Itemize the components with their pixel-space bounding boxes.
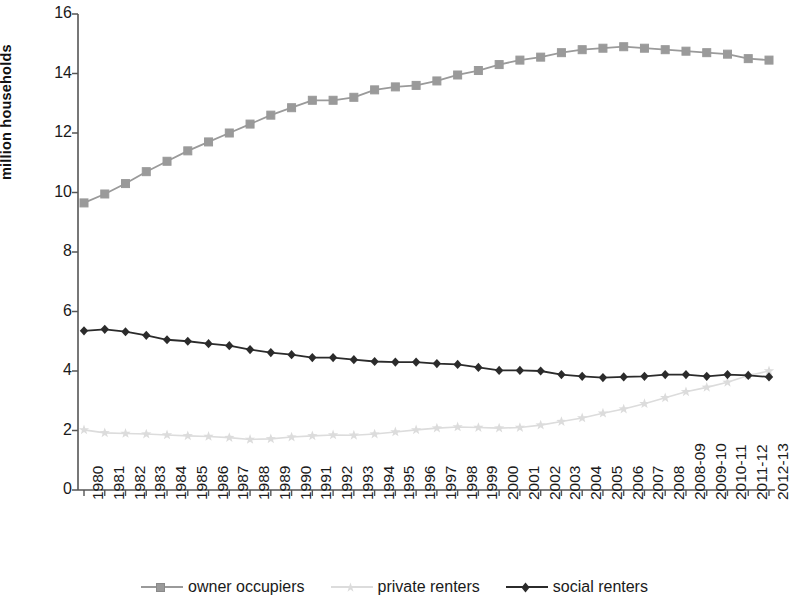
x-axis-tick-label: 1982 — [132, 466, 148, 500]
x-axis-tick-label: 1995 — [401, 466, 417, 500]
star-marker-icon — [307, 430, 317, 440]
series-line — [84, 329, 769, 377]
diamond-marker-icon — [350, 355, 358, 364]
legend-label-social-renters: social renters — [553, 578, 648, 596]
diamond-marker-icon — [703, 372, 711, 381]
x-axis-tick-label: 1980 — [90, 466, 106, 500]
x-axis-tick-label: 2000 — [505, 466, 521, 500]
square-marker-icon — [640, 44, 648, 52]
square-marker-icon — [225, 129, 233, 137]
x-axis-tick-label: 2009-10 — [713, 443, 729, 500]
star-marker-icon — [536, 420, 546, 430]
diamond-marker-icon — [370, 357, 378, 366]
diamond-marker-icon — [765, 372, 773, 381]
square-marker-icon — [205, 138, 213, 146]
square-marker-icon — [723, 50, 731, 58]
star-marker-icon — [345, 582, 356, 593]
square-marker-icon — [184, 147, 192, 155]
x-axis-tick-label: 1989 — [277, 466, 293, 500]
chart-plot-area — [0, 0, 789, 605]
star-marker-icon — [162, 430, 172, 440]
square-marker-icon — [267, 111, 275, 119]
star-marker-icon — [681, 386, 691, 396]
x-axis-tick-label: 1984 — [173, 466, 189, 500]
diamond-marker-icon — [308, 353, 316, 362]
diamond-marker-icon — [246, 345, 254, 354]
x-axis-tick-label: 1994 — [381, 466, 397, 500]
star-marker-icon — [183, 430, 193, 440]
square-marker-icon — [288, 104, 296, 112]
star-marker-icon — [100, 427, 110, 437]
star-marker-icon — [79, 425, 89, 435]
x-axis-tick-label: 1996 — [422, 466, 438, 500]
square-marker-icon — [163, 157, 171, 165]
series-owner-occupiers — [80, 43, 773, 207]
x-axis-tick-label: 1992 — [339, 466, 355, 500]
x-axis-tick-label: 2008-09 — [692, 443, 708, 500]
diamond-marker-icon — [80, 326, 88, 335]
star-marker-icon — [120, 428, 130, 438]
x-axis-tick-label: 1986 — [215, 466, 231, 500]
diamond-marker-icon — [619, 372, 627, 381]
square-marker-icon — [371, 86, 379, 94]
diamond-marker-icon — [225, 341, 233, 350]
x-axis-tick-label: 1983 — [152, 466, 168, 500]
diamond-marker-icon — [495, 366, 503, 375]
star-marker-icon — [660, 392, 670, 402]
series-line — [84, 47, 769, 203]
star-marker-icon — [619, 404, 629, 414]
square-marker-icon — [557, 49, 565, 57]
diamond-marker-icon — [142, 331, 150, 340]
x-axis-tick-label: 2005 — [609, 466, 625, 500]
star-marker-icon — [473, 422, 483, 432]
x-axis-tick-label: 1987 — [235, 466, 251, 500]
series-social-renters — [80, 325, 773, 382]
star-marker-icon — [328, 430, 338, 440]
legend-item-owner-occupiers[interactable]: owner occupiers — [141, 578, 305, 596]
star-marker-icon — [390, 427, 400, 437]
legend-item-social-renters[interactable]: social renters — [506, 578, 648, 596]
diamond-marker-icon — [184, 337, 192, 346]
star-marker-icon — [515, 422, 525, 432]
star-marker-icon — [224, 432, 234, 442]
square-marker-icon — [620, 43, 628, 51]
square-marker-icon — [578, 46, 586, 54]
square-marker-icon — [599, 44, 607, 52]
x-axis-tick-label: 2012-13 — [775, 443, 789, 500]
diamond-marker-icon — [557, 370, 565, 379]
x-axis-tick-label: 1985 — [194, 466, 210, 500]
star-marker-icon — [349, 430, 359, 440]
x-axis-tick-label: 1981 — [111, 466, 127, 500]
star-marker-icon — [141, 429, 151, 439]
square-marker-icon — [101, 190, 109, 198]
diamond-marker-icon — [516, 366, 524, 375]
x-axis-tick-label: 2008 — [671, 466, 687, 500]
square-marker-icon — [391, 83, 399, 91]
x-axis-tick-label: 2006 — [630, 466, 646, 500]
legend-label-private-renters: private renters — [378, 578, 480, 596]
diamond-marker-icon — [661, 370, 669, 379]
x-axis-tick-label: 1991 — [318, 466, 334, 500]
diamond-marker-icon — [329, 353, 337, 362]
series-private-renters — [79, 366, 774, 444]
diamond-marker-icon — [536, 366, 544, 375]
diamond-marker-icon — [204, 339, 212, 348]
square-marker-icon — [682, 47, 690, 55]
x-axis-tick-label: 2011-12 — [754, 444, 770, 500]
x-axis-tick-label: 2003 — [567, 466, 583, 500]
diamond-marker-icon — [682, 370, 690, 379]
legend-item-private-renters[interactable]: private renters — [331, 578, 480, 596]
star-marker-icon — [639, 398, 649, 408]
diamond-marker-icon — [578, 372, 586, 381]
square-marker-icon — [246, 120, 254, 128]
square-marker-icon — [516, 56, 524, 64]
square-marker-icon — [122, 180, 130, 188]
legend-swatch-owner-occupiers — [141, 580, 183, 594]
diamond-marker-icon — [474, 363, 482, 372]
x-axis-tick-label: 1998 — [464, 466, 480, 500]
square-marker-icon — [412, 81, 420, 89]
diamond-marker-icon — [433, 359, 441, 368]
diamond-marker-icon — [391, 357, 399, 366]
diamond-marker-icon — [287, 350, 295, 359]
x-axis-tick-label: 1990 — [298, 466, 314, 500]
